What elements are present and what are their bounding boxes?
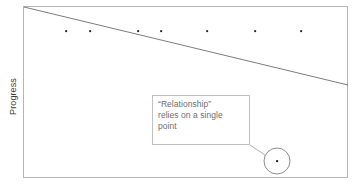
data-point xyxy=(89,30,91,32)
data-point xyxy=(160,30,162,32)
data-point xyxy=(137,30,139,32)
outlier-data-point xyxy=(276,160,278,162)
scatter-plot-figure: Progress “Relationship” relies on a sing… xyxy=(0,0,354,193)
data-point xyxy=(206,30,208,32)
data-point xyxy=(65,30,67,32)
plot-frame xyxy=(24,7,348,178)
data-point xyxy=(300,30,302,32)
data-point xyxy=(254,30,256,32)
callout-box xyxy=(152,95,250,145)
